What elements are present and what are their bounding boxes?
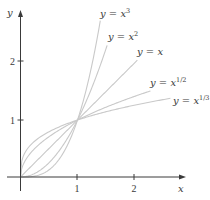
curve-y-x xyxy=(21,60,138,177)
curve-label: y = x xyxy=(136,46,163,57)
curve-y-x-2 xyxy=(21,45,108,177)
curve-y-x-3 xyxy=(21,21,101,177)
y-axis-label: y xyxy=(6,7,13,18)
x-tick-label-2: 2 xyxy=(132,183,137,194)
x-axis-label: x xyxy=(178,183,184,194)
curve-label: y = x1/3 xyxy=(172,94,210,106)
curve-labels: y = x3y = x2y = xy = x1/2y = x1/3 xyxy=(99,7,210,106)
x-tick-label-1: 1 xyxy=(75,183,80,194)
x-axis-arrow-icon xyxy=(179,175,186,180)
curves-group xyxy=(21,21,171,177)
y-tick-label-1: 1 xyxy=(10,115,15,126)
y-axis-arrow-icon xyxy=(18,10,23,17)
curve-label: y = x1/2 xyxy=(149,76,187,88)
curve-label: y = x2 xyxy=(107,30,138,42)
power-functions-chart: 1 2 1 2 x y y = x3y = x2y = xy = x1/2y =… xyxy=(0,0,210,200)
y-tick-label-2: 2 xyxy=(10,56,15,67)
curve-label: y = x3 xyxy=(99,7,130,19)
curve-y-x-1-3 xyxy=(21,98,171,177)
